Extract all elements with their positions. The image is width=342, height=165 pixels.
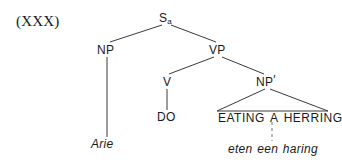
branch-vp-to-v bbox=[169, 57, 214, 74]
triangle-right-side bbox=[270, 89, 328, 111]
terminal-verb-feature: DO bbox=[157, 111, 176, 123]
branch-root-to-np bbox=[110, 25, 162, 42]
branch-vp-to-np-prime bbox=[222, 57, 264, 74]
example-number: (XXX) bbox=[16, 14, 60, 29]
node-np-prime-label: NP bbox=[256, 75, 273, 89]
node-v: V bbox=[163, 76, 171, 88]
branch-root-to-vp bbox=[171, 25, 216, 42]
triangle-left-side bbox=[217, 89, 265, 111]
terminal-subject-word: Arie bbox=[91, 138, 114, 150]
terminal-object-phrase: EATING A HERRING bbox=[218, 112, 342, 124]
node-vp: VP bbox=[209, 44, 226, 56]
node-np-prime: NP′ bbox=[256, 76, 276, 88]
node-np-subject: NP bbox=[97, 44, 114, 56]
node-v-label: V bbox=[163, 75, 171, 89]
prime-mark: ′ bbox=[273, 73, 276, 87]
node-root-subscript: a bbox=[167, 17, 171, 26]
node-root-sa: Sa bbox=[159, 12, 172, 24]
terminal-object-gloss: eten een haring bbox=[228, 143, 318, 155]
